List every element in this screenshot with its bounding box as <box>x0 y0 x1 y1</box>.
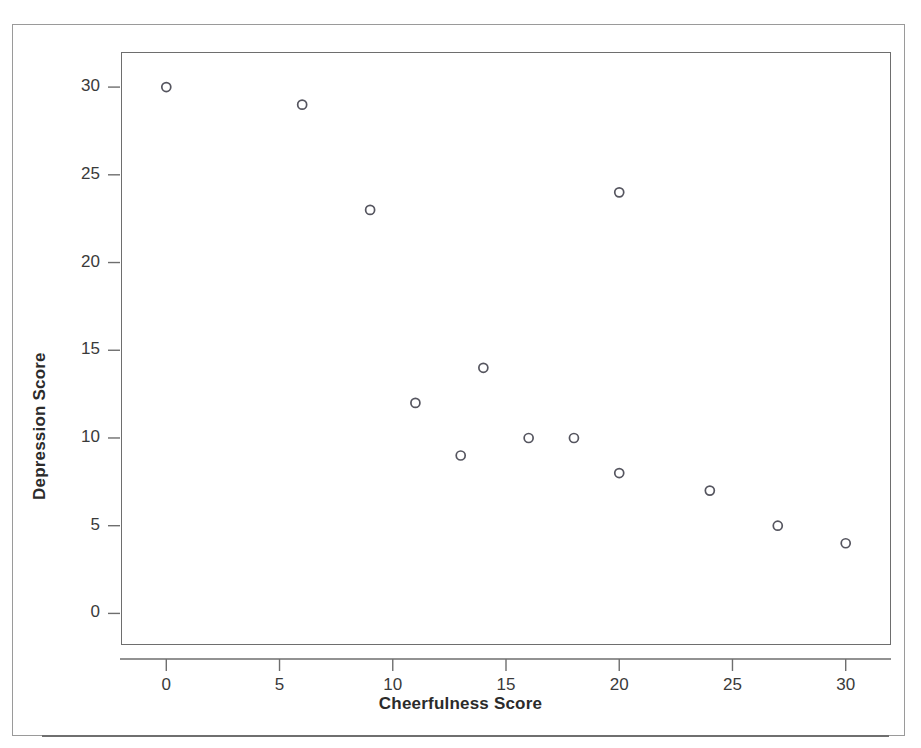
x-tick-label: 5 <box>260 675 300 695</box>
plot-canvas <box>0 0 921 748</box>
y-tick-label: 30 <box>60 76 100 96</box>
data-point-marker <box>615 469 624 478</box>
y-tick-label: 0 <box>60 602 100 622</box>
scatterplot-figure: 051015202530 051015202530 Depression Sco… <box>0 0 921 748</box>
footer-divider <box>42 735 889 737</box>
x-tick-label: 20 <box>599 675 639 695</box>
y-tick-label: 10 <box>60 427 100 447</box>
data-point-marker <box>773 521 782 530</box>
data-point-marker <box>841 539 850 548</box>
x-tick-label: 0 <box>146 675 186 695</box>
x-tick-label: 30 <box>826 675 866 695</box>
data-point-marker <box>456 451 465 460</box>
data-point-marker <box>298 100 307 109</box>
y-tick-label: 15 <box>60 339 100 359</box>
y-tick-label: 5 <box>60 515 100 535</box>
y-tick-label: 20 <box>60 252 100 272</box>
data-point-marker <box>366 205 375 214</box>
y-tick-label: 25 <box>60 164 100 184</box>
data-point-marker <box>411 398 420 407</box>
data-point-marker <box>569 433 578 442</box>
x-axis-title: Cheerfulness Score <box>0 694 921 714</box>
x-tick-label: 15 <box>486 675 526 695</box>
x-tick-label: 10 <box>373 675 413 695</box>
y-axis-title: Depression Score <box>30 352 50 500</box>
data-point-marker <box>615 188 624 197</box>
data-point-marker <box>162 83 171 92</box>
data-point-marker <box>524 433 533 442</box>
data-point-marker <box>479 363 488 372</box>
x-axis-tick-marks <box>120 659 891 671</box>
x-tick-label: 25 <box>712 675 752 695</box>
y-axis-tick-marks <box>108 87 120 613</box>
data-point-marker <box>705 486 714 495</box>
data-point-markers <box>162 83 850 548</box>
